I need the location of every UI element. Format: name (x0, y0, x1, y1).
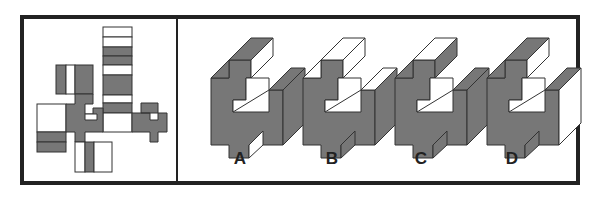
option-d-shape[interactable] (487, 38, 581, 158)
option-c-shape[interactable] (395, 38, 489, 158)
option-d-label[interactable]: D (502, 149, 522, 169)
option-a-shape[interactable] (211, 38, 305, 158)
option-a-label[interactable]: A (230, 149, 250, 169)
option-c-label[interactable]: C (411, 149, 431, 169)
net-diagram (37, 27, 167, 172)
option-b-shape[interactable] (303, 38, 397, 158)
option-b-label[interactable]: B (322, 149, 342, 169)
